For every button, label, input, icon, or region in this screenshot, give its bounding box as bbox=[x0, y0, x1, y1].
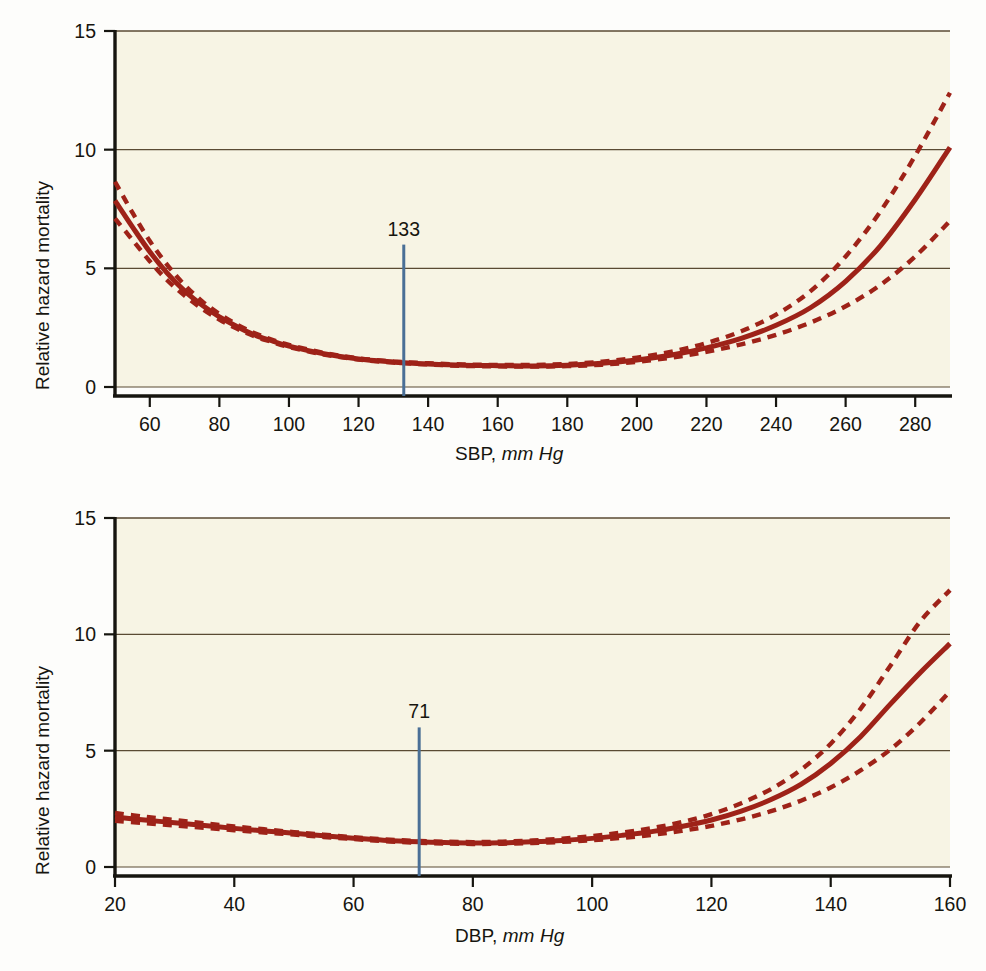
plot-background bbox=[115, 518, 950, 867]
x-tick-label-100: 100 bbox=[576, 893, 609, 915]
x-axis-label-dbp-main: DBP, bbox=[455, 925, 497, 946]
x-axis-label-sbp-main: SBP, bbox=[455, 443, 496, 464]
plot-area-dbp: 0510152040608010012014016071 bbox=[0, 485, 986, 971]
y-tick-label-0: 0 bbox=[85, 856, 96, 878]
x-axis-label-dbp: DBP, mm Hg bbox=[455, 925, 564, 947]
y-axis-label-sbp: Relative hazard mortality bbox=[32, 181, 54, 390]
x-tick-label-260: 260 bbox=[829, 413, 862, 435]
x-tick-label-120: 120 bbox=[695, 893, 728, 915]
x-tick-label-60: 60 bbox=[343, 893, 365, 915]
y-tick-label-10: 10 bbox=[74, 139, 96, 161]
x-tick-label-180: 180 bbox=[551, 413, 584, 435]
x-axis-label-dbp-units: mm Hg bbox=[503, 925, 565, 946]
x-tick-label-280: 280 bbox=[899, 413, 932, 435]
x-tick-label-140: 140 bbox=[412, 413, 445, 435]
plot-area-sbp: 0510156080100120140160180200220240260280… bbox=[0, 0, 986, 485]
y-tick-label-15: 15 bbox=[74, 507, 96, 529]
y-tick-label-15: 15 bbox=[74, 20, 96, 42]
x-tick-label-200: 200 bbox=[621, 413, 654, 435]
x-tick-label-160: 160 bbox=[481, 413, 514, 435]
x-axis-label-sbp: SBP, mm Hg bbox=[455, 443, 563, 465]
y-axis-label-dbp: Relative hazard mortality bbox=[32, 666, 54, 875]
x-tick-label-80: 80 bbox=[209, 413, 231, 435]
plot-background bbox=[115, 31, 950, 387]
x-tick-label-220: 220 bbox=[690, 413, 723, 435]
y-tick-label-5: 5 bbox=[85, 257, 96, 279]
chart-panel-sbp: 0510156080100120140160180200220240260280… bbox=[0, 0, 986, 485]
x-tick-label-80: 80 bbox=[462, 893, 484, 915]
y-tick-label-0: 0 bbox=[85, 376, 96, 398]
x-tick-label-60: 60 bbox=[139, 413, 161, 435]
y-tick-label-5: 5 bbox=[85, 740, 96, 762]
nadir-marker-label: 71 bbox=[408, 700, 430, 722]
x-tick-label-160: 160 bbox=[934, 893, 967, 915]
x-tick-label-100: 100 bbox=[273, 413, 306, 435]
x-tick-label-40: 40 bbox=[223, 893, 245, 915]
nadir-marker-label: 133 bbox=[387, 218, 420, 240]
x-tick-label-20: 20 bbox=[104, 893, 126, 915]
x-tick-label-140: 140 bbox=[814, 893, 847, 915]
x-tick-label-120: 120 bbox=[342, 413, 375, 435]
x-tick-label-240: 240 bbox=[760, 413, 793, 435]
y-tick-label-10: 10 bbox=[74, 623, 96, 645]
x-axis-label-sbp-units: mm Hg bbox=[502, 443, 564, 464]
figure-relative-hazard-blood-pressure: 0510156080100120140160180200220240260280… bbox=[0, 0, 986, 971]
chart-panel-dbp: 0510152040608010012014016071 Relative ha… bbox=[0, 485, 986, 970]
